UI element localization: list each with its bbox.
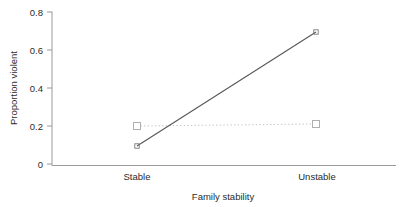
chart-background [0,0,403,207]
series-dotted-marker-stable [134,123,141,130]
chart-container: 0.8 0.6 0.4 0.2 0 Stable Unstable Family… [0,0,403,207]
x-category-label-stable: Stable [124,171,151,182]
x-axis-title: Family stability [192,191,255,202]
y-axis-title: Proportion violent [8,51,19,125]
x-category-label-unstable: Unstable [298,171,336,182]
y-tick-label-0.8: 0.8 [30,7,43,18]
series-dotted-marker-unstable [313,121,320,128]
y-tick-label-0.2: 0.2 [30,121,43,132]
interaction-plot-svg: 0.8 0.6 0.4 0.2 0 Stable Unstable Family… [0,0,403,207]
y-tick-label-0.6: 0.6 [30,45,43,56]
y-tick-label-0: 0 [38,159,43,170]
y-tick-label-0.4: 0.4 [30,83,43,94]
